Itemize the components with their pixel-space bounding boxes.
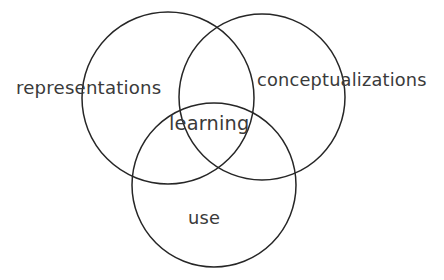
- label-use: use: [188, 209, 220, 227]
- label-conceptualizations: conceptualizations: [257, 71, 427, 90]
- venn-circles-svg: [0, 0, 444, 280]
- label-representations: representations: [16, 79, 161, 98]
- diagram-background: [0, 0, 444, 280]
- label-learning-intersection: learning: [169, 114, 249, 134]
- venn-diagram: representations conceptualizations learn…: [0, 0, 444, 280]
